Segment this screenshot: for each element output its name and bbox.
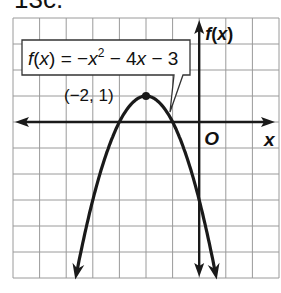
origin-label: O — [204, 128, 219, 149]
vertex-label: (−2, 1) — [64, 86, 114, 105]
y-axis-label: f(x) — [205, 24, 233, 44]
parabola-graph: (−2, 1) f(x) = −x2 − 4x − 3 f(x) x O — [0, 0, 281, 293]
vertex-point — [142, 92, 150, 100]
x-axis-label: x — [263, 129, 276, 150]
